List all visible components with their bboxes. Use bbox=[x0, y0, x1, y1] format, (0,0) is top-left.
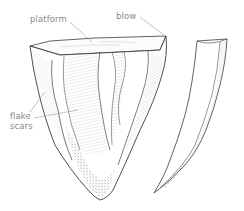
flake-scars-label-line2: scars bbox=[10, 121, 40, 131]
blow-leader bbox=[140, 17, 165, 36]
flake-scars-label: flake scars bbox=[10, 111, 40, 131]
blow-label: blow bbox=[116, 11, 136, 21]
flake-scars-label-line1: flake bbox=[10, 111, 40, 121]
core-and-blade-illustration bbox=[0, 0, 244, 211]
stone-core bbox=[30, 36, 167, 200]
platform-label: platform bbox=[30, 14, 67, 24]
